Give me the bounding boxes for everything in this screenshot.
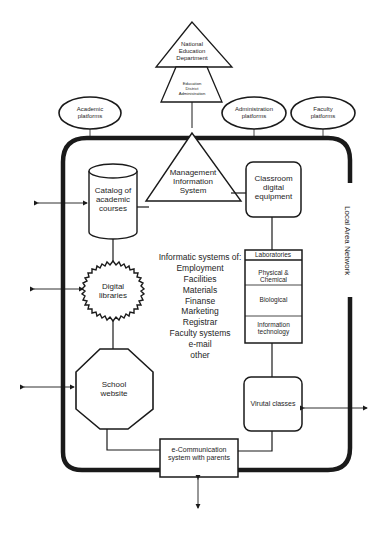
label-line: Classroom — [246, 174, 301, 183]
label-line: Catalog of — [89, 186, 137, 195]
label-line: platforms — [62, 113, 118, 120]
label-line: platforms — [224, 113, 284, 120]
label-line: Information — [150, 177, 236, 186]
list-item: other — [146, 350, 254, 361]
label-line: system with parents — [160, 454, 238, 462]
list-item: Finanse — [146, 296, 254, 307]
catalog-label: Catalog of academic courses — [89, 186, 137, 214]
classroom-equipment-label: Classroom digital equipment — [246, 174, 301, 202]
label-line: Administration — [170, 92, 214, 97]
label-line: National — [168, 41, 216, 48]
mis-label: Management Information System — [150, 168, 236, 196]
list-item: Faculty systems — [146, 328, 254, 339]
label-line: Education — [168, 48, 216, 55]
list-item: Employment — [146, 263, 254, 274]
ecomm-label: e-Communication system with parents — [160, 446, 238, 462]
label-line: Faculty — [295, 106, 351, 113]
lan-label: Local Area Network — [343, 206, 352, 275]
label-line: Academic — [62, 106, 118, 113]
list-item: e-mail — [146, 339, 254, 350]
list-item: Facilities — [146, 274, 254, 285]
label-line: courses — [89, 204, 137, 213]
national-department-label: National Education Department — [168, 41, 216, 62]
label-line: School — [88, 380, 140, 389]
label-line: equipment — [246, 192, 301, 201]
district-administration-label: Education District Administration — [170, 82, 214, 96]
digital-libraries-label: Digital libraries — [93, 282, 133, 300]
school-website-label: School website — [88, 380, 140, 398]
label-line: Management — [150, 168, 236, 177]
label-line: System — [150, 186, 236, 195]
list-heading: Informatic systems of: — [146, 252, 254, 263]
label-line: libraries — [93, 291, 133, 300]
virtual-classes-label: Virutal classes — [244, 400, 302, 408]
label-line: website — [88, 389, 140, 398]
list-item: Marketing — [146, 306, 254, 317]
list-item: Materials — [146, 285, 254, 296]
label-line: Digital — [93, 282, 133, 291]
informatic-systems-list: Informatic systems of: Employment Facili… — [146, 252, 254, 361]
academic-platforms-label: Academic platforms — [62, 106, 118, 120]
faculty-platforms-label: Faculty platforms — [295, 106, 351, 120]
label-line: Administration — [224, 106, 284, 113]
label-line: e-Communication — [160, 446, 238, 454]
label-line: platforms — [295, 113, 351, 120]
label-line: digital — [246, 183, 301, 192]
label-line: Department — [168, 55, 216, 62]
list-item: Registrar — [146, 317, 254, 328]
label-line: academic — [89, 195, 137, 204]
administration-platforms-label: Administration platforms — [224, 106, 284, 120]
